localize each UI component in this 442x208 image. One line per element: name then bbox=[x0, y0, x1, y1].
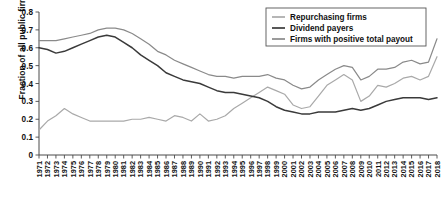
series-line-1 bbox=[39, 35, 437, 114]
legend-label-2: Firms with positive total payout bbox=[290, 35, 413, 44]
chart-container: Fraction of all public firms 00.10.20.30… bbox=[0, 0, 442, 208]
y-axis-title: Fraction of all public firms bbox=[17, 0, 27, 105]
legend-label-0: Repurchasing firms bbox=[290, 13, 367, 22]
x-axis-ticks: 1971197219731974197519761977197819791980… bbox=[35, 155, 442, 177]
y-tick-label: 0.1 bbox=[22, 133, 34, 142]
line-chart: 00.10.20.30.40.50.60.70.8 19711972197319… bbox=[0, 0, 442, 208]
y-tick-label: 0.2 bbox=[22, 115, 34, 124]
x-tick-label: 2018 bbox=[433, 161, 442, 177]
y-tick-label: 0 bbox=[28, 151, 33, 160]
legend-label-1: Dividend payers bbox=[290, 24, 354, 33]
chart-legend: Repurchasing firmsDividend payersFirms w… bbox=[266, 8, 426, 46]
